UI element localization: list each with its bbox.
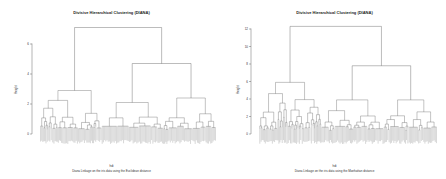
dendrogram-plot: 0246 [0,0,223,179]
dendrogram-panel-manhattan: Divisive Hierarchical Clustering (DIANA)… [223,0,446,179]
svg-text:6: 6 [246,80,248,84]
x-axis-label: hdi [0,164,223,168]
svg-text:0: 0 [27,132,29,136]
svg-text:2: 2 [246,115,248,119]
y-axis-label: Height [14,85,18,94]
x-axis-label: hdi [223,164,446,168]
svg-text:2: 2 [27,102,29,106]
dendrogram-plot: 024681012 [223,0,446,179]
svg-text:0: 0 [246,132,248,136]
svg-text:4: 4 [246,97,248,101]
chart-subtitle: Diana Linkage on the iris data using the… [0,169,223,173]
svg-text:10: 10 [245,45,249,49]
svg-text:6: 6 [27,42,29,46]
svg-text:8: 8 [246,62,248,66]
dendrogram-panel-euclidean: Divisive Hierarchical Clustering (DIANA)… [0,0,223,179]
svg-text:12: 12 [245,27,249,31]
y-axis-label: Height [236,85,240,94]
svg-text:4: 4 [27,72,29,76]
chart-subtitle: Diana Linkage on the iris data using the… [223,169,446,173]
